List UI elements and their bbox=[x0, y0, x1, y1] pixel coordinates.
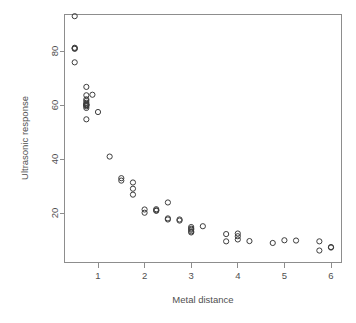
y-axis-ticks: 20406080 bbox=[49, 46, 65, 219]
x-tick-label: 6 bbox=[328, 270, 333, 281]
x-axis-title: Metal distance bbox=[172, 294, 233, 305]
x-axis-ticks: 123456 bbox=[95, 263, 333, 281]
data-point bbox=[224, 231, 229, 236]
y-tick-label: 60 bbox=[49, 100, 60, 111]
plot-frame bbox=[65, 15, 342, 263]
data-point bbox=[84, 84, 89, 89]
data-point bbox=[107, 154, 112, 159]
data-point bbox=[130, 180, 135, 185]
x-tick-label: 4 bbox=[235, 270, 240, 281]
data-point bbox=[130, 186, 135, 191]
chart-canvas: 123456 20406080 Metal distance Ultrasoni… bbox=[0, 0, 356, 323]
y-axis-title: Ultrasonic response bbox=[19, 96, 30, 180]
data-points-layer bbox=[72, 14, 334, 254]
y-tick-label: 20 bbox=[49, 208, 60, 219]
data-point bbox=[142, 210, 147, 215]
data-point bbox=[317, 239, 322, 244]
data-point bbox=[84, 117, 89, 122]
data-point bbox=[72, 60, 77, 65]
data-point bbox=[317, 248, 322, 253]
data-point bbox=[90, 92, 95, 97]
data-point bbox=[235, 237, 240, 242]
data-point bbox=[130, 192, 135, 197]
x-tick-label: 5 bbox=[282, 270, 287, 281]
y-tick-label: 80 bbox=[49, 46, 60, 57]
data-point bbox=[293, 238, 298, 243]
data-point bbox=[95, 109, 100, 114]
x-tick-label: 2 bbox=[142, 270, 147, 281]
scatter-plot-figure: 123456 20406080 Metal distance Ultrasoni… bbox=[0, 0, 356, 323]
data-point bbox=[200, 224, 205, 229]
data-point bbox=[224, 239, 229, 244]
data-point bbox=[247, 238, 252, 243]
y-tick-label: 40 bbox=[49, 154, 60, 165]
x-tick-label: 3 bbox=[189, 270, 194, 281]
x-tick-label: 1 bbox=[95, 270, 100, 281]
data-point bbox=[282, 238, 287, 243]
data-point bbox=[165, 200, 170, 205]
data-point bbox=[270, 240, 275, 245]
